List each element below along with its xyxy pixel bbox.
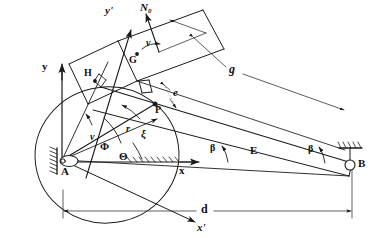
arc-nu-A xyxy=(86,114,92,125)
ground-hatching-x xyxy=(127,157,179,162)
arc-theta xyxy=(133,143,142,159)
point-label-E: E xyxy=(250,145,257,156)
angle-label-phi: Φ xyxy=(100,141,109,152)
dimension-label-e: e xyxy=(173,87,178,98)
pivot-A-hatching xyxy=(50,147,57,174)
dimension-label-d: d xyxy=(201,203,208,215)
offset-rod-lower xyxy=(137,81,345,150)
dim-e-upper xyxy=(164,85,170,90)
axis-label-x: x xyxy=(179,165,185,176)
point-label-H: H xyxy=(84,68,92,78)
axis-label-xprime: x' xyxy=(197,222,206,233)
node-dot-H xyxy=(93,79,97,83)
diagram-vector-layer xyxy=(0,0,371,238)
dim-g-right xyxy=(243,74,344,110)
force-label-N0: N0 xyxy=(140,2,151,15)
dim-e-lower xyxy=(170,99,176,108)
pivot-B-hatching xyxy=(338,142,361,148)
dimension-label-g: g xyxy=(229,63,235,75)
point-label-P: P xyxy=(155,105,161,115)
arc-r xyxy=(122,105,140,119)
force-N0-tip-line xyxy=(170,20,206,33)
force-label-N0-subscript: 0 xyxy=(148,7,151,14)
angle-label-beta-right: β xyxy=(308,144,313,154)
line-A-to-coupler-lower xyxy=(62,160,349,176)
angle-label-theta: Θ xyxy=(119,151,128,162)
point-label-G: G xyxy=(129,55,137,65)
line-A-xi xyxy=(62,119,157,160)
point-label-A: A xyxy=(61,166,69,177)
angle-label-nu-at-A: ν xyxy=(90,132,94,142)
force-label-N0-base: N xyxy=(140,1,148,13)
arc-beta-left xyxy=(222,146,228,162)
axis-label-yprime: y' xyxy=(105,5,113,16)
angle-label-r: r xyxy=(126,124,130,134)
angle-label-beta-left: β xyxy=(210,143,215,153)
angle-label-nu-at-G: ν xyxy=(146,38,150,48)
pivot-B-joint xyxy=(345,160,355,170)
pivot-A-center xyxy=(61,159,65,163)
angle-label-xi: ξ xyxy=(141,128,146,139)
dim-g-left xyxy=(193,37,226,67)
figure-canvas: A B P G H E y x y' x' ν r ξ Φ Θ ν β β g … xyxy=(0,0,371,238)
point-label-B: B xyxy=(358,158,365,169)
axis-label-y: y xyxy=(42,61,48,72)
axis-xprime-line xyxy=(62,160,195,222)
